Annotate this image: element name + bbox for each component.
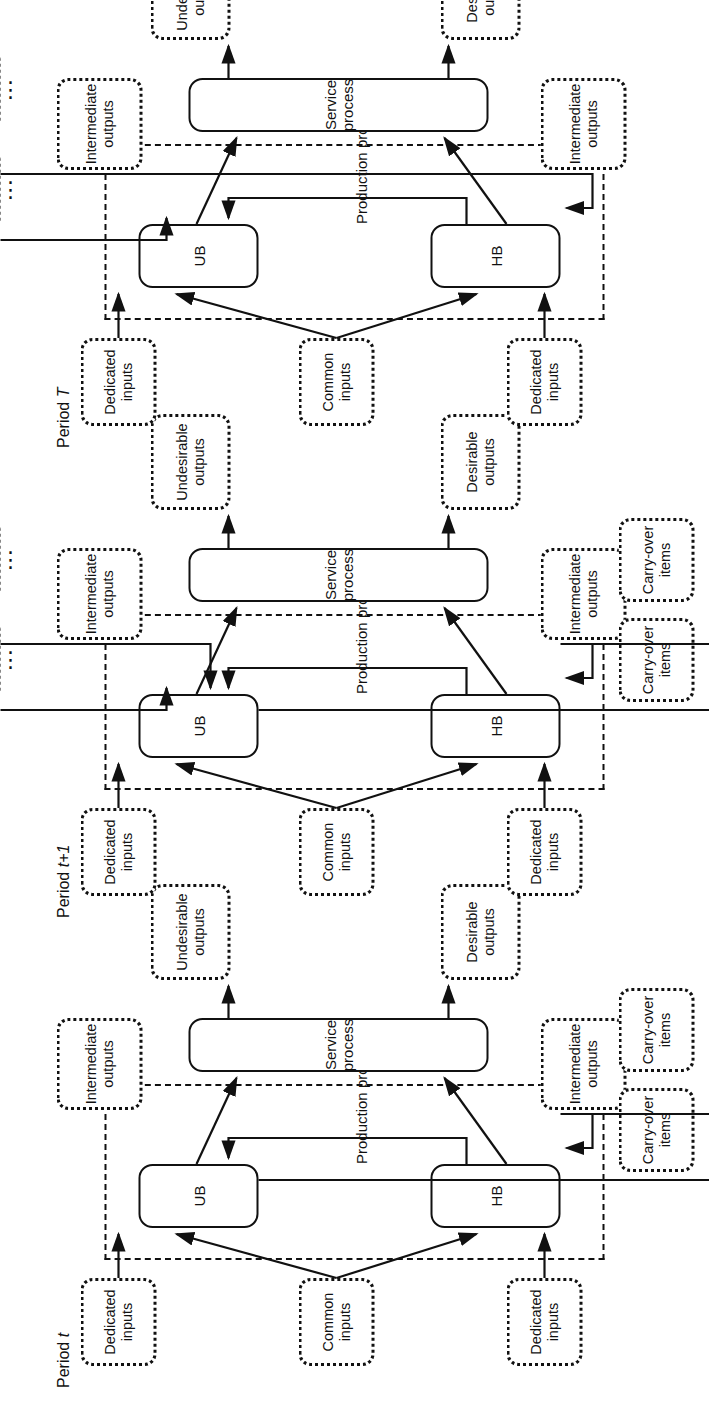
period-panel-t: Period t Production process Dedicated in…: [0, 950, 709, 1410]
period-panel-t-plus-1: Period t+1 Production process Dedicated …: [0, 480, 709, 940]
connector-lines-t-plus-1: [0, 480, 709, 940]
diagram-stage: Period t Production process Dedicated in…: [0, 0, 709, 1418]
connector-lines-t: [0, 950, 709, 1410]
connector-lines-T: [0, 10, 709, 470]
period-panel-T: Period T Production process Dedicated in…: [0, 10, 709, 470]
